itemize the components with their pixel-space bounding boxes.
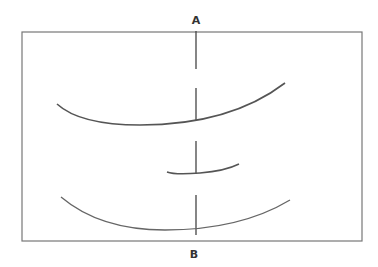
lower-curve <box>61 197 290 230</box>
frame <box>22 32 362 241</box>
middle-curve <box>167 164 239 174</box>
label-a: A <box>192 14 201 27</box>
upper-curve <box>57 83 285 125</box>
label-b: B <box>190 248 198 261</box>
diagram-canvas <box>0 0 378 267</box>
